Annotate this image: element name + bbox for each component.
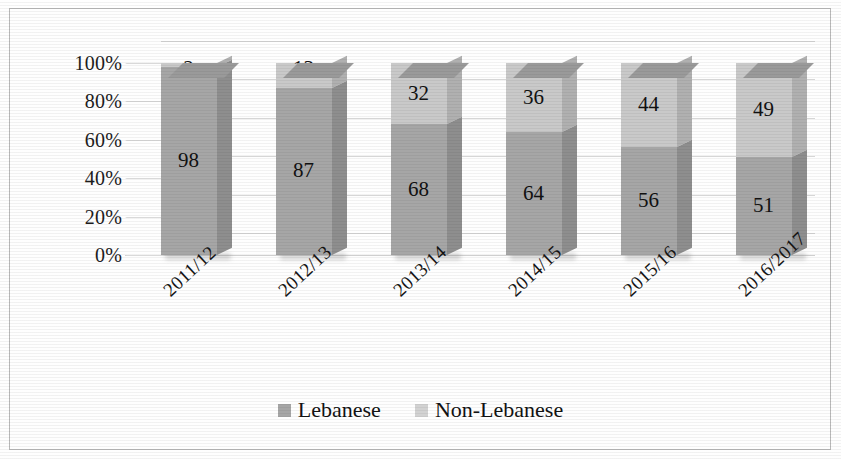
legend-item-lebanese[interactable]: Lebanese bbox=[278, 399, 381, 421]
bar-segment-side-face bbox=[217, 60, 232, 255]
legend-label: Lebanese bbox=[298, 399, 381, 421]
y-axis-tick-label: 80% bbox=[32, 91, 122, 111]
y-axis-tick-label: 0% bbox=[32, 245, 122, 265]
stacked-bar[interactable]: 1387 bbox=[276, 63, 332, 255]
y-axis-tick-label: 20% bbox=[32, 207, 122, 227]
y-axis-tick-label: 40% bbox=[32, 168, 122, 188]
legend-item-non-lebanese[interactable]: Non-Lebanese bbox=[415, 399, 563, 421]
bar-value-label: 68 bbox=[391, 179, 447, 200]
bar-group: 298 bbox=[161, 63, 217, 255]
bar-group: 4951 bbox=[736, 63, 792, 255]
legend-label: Non-Lebanese bbox=[435, 399, 563, 421]
gridline-horizontal bbox=[161, 118, 815, 119]
legend-swatch-icon bbox=[415, 404, 428, 417]
bar-value-label: 98 bbox=[161, 150, 217, 171]
bar-group: 4456 bbox=[621, 63, 677, 255]
bar-value-label: 36 bbox=[506, 87, 562, 108]
bar-value-label: 64 bbox=[506, 183, 562, 204]
stacked-bar[interactable]: 4456 bbox=[621, 63, 677, 255]
chart-legend: LebaneseNon-Lebanese bbox=[0, 399, 841, 421]
bar-value-label: 32 bbox=[391, 83, 447, 104]
bar-value-label: 49 bbox=[736, 99, 792, 120]
y-axis-tick-label: 60% bbox=[32, 130, 122, 150]
bar-segment-side-face bbox=[677, 140, 692, 255]
stacked-bar[interactable]: 3268 bbox=[391, 63, 447, 255]
bar-group: 1387 bbox=[276, 63, 332, 255]
bar-segment-side-face bbox=[562, 125, 577, 255]
stacked-bar[interactable]: 3664 bbox=[506, 63, 562, 255]
bar-value-label: 87 bbox=[276, 160, 332, 181]
bar-segment-lebanese[interactable]: 56 bbox=[621, 147, 677, 255]
y-axis-tick-label: 100% bbox=[32, 53, 122, 73]
bar-value-label: 56 bbox=[621, 190, 677, 211]
stacked-bar[interactable]: 298 bbox=[161, 63, 217, 255]
legend-swatch-icon bbox=[278, 404, 291, 417]
bar-group: 3664 bbox=[506, 63, 562, 255]
bar-value-label: 51 bbox=[736, 195, 792, 216]
bar-segment-lebanese[interactable]: 68 bbox=[391, 124, 447, 255]
bar-segment-lebanese[interactable]: 87 bbox=[276, 88, 332, 255]
chart-figure: 100%80%60%40%20%0% 2982011/1213872012/13… bbox=[0, 0, 841, 459]
bar-segment-lebanese[interactable]: 98 bbox=[161, 67, 217, 255]
stacked-bar[interactable]: 4951 bbox=[736, 63, 792, 255]
gridline-horizontal bbox=[161, 79, 815, 80]
bar-segment-lebanese[interactable]: 64 bbox=[506, 132, 562, 255]
y-axis: 100%80%60%40%20%0% bbox=[22, 0, 122, 459]
bar-value-label: 44 bbox=[621, 94, 677, 115]
gridline-horizontal bbox=[161, 233, 815, 234]
plot-area: 100%80%60%40%20%0% 2982011/1213872012/13… bbox=[0, 0, 841, 459]
bar-segment-side-face bbox=[332, 81, 347, 255]
gridline-horizontal bbox=[161, 41, 815, 42]
gridline-horizontal bbox=[161, 156, 815, 157]
bar-segment-side-face bbox=[447, 117, 462, 255]
gridline-horizontal bbox=[161, 195, 815, 196]
bar-group: 3268 bbox=[391, 63, 447, 255]
